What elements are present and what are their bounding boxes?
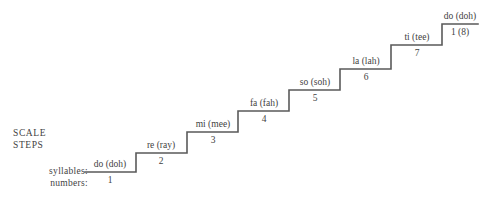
scale-steps-line2: STEPS [13, 140, 43, 150]
scale-steps-heading: SCALE STEPS [13, 128, 46, 151]
step-syllable: ti (tee) [404, 32, 429, 43]
step-syllable: re (ray) [147, 140, 175, 151]
step-syllable: so (soh) [300, 77, 330, 88]
scale-steps-line1: SCALE [13, 128, 46, 138]
step-number: 6 [364, 72, 369, 83]
step-syllable: do (doh) [94, 159, 126, 170]
row-label-block: syllables: numbers: [33, 166, 88, 189]
step-number: 7 [415, 48, 420, 59]
staircase-polyline [85, 24, 478, 172]
step-number: 1 [108, 175, 113, 186]
row-label-syllables: syllables: [49, 166, 88, 176]
step-syllable: do (doh) [444, 11, 476, 22]
step-syllable: fa (fah) [250, 98, 278, 109]
row-label-numbers: numbers: [50, 178, 88, 188]
step-number: 1 (8) [451, 27, 469, 38]
step-syllable: mi (mee) [196, 119, 231, 130]
step-number: 2 [159, 156, 164, 167]
step-number: 4 [262, 114, 267, 125]
step-syllable: la (lah) [352, 56, 379, 67]
scale-steps-figure: SCALE STEPS syllables: numbers: do (doh)… [0, 0, 484, 200]
step-number: 3 [211, 135, 216, 146]
step-number: 5 [313, 93, 318, 104]
